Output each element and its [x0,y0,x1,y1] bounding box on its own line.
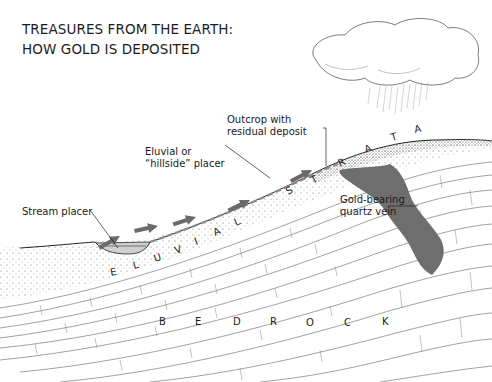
svg-text:R: R [270,316,277,327]
eluvial-label-line-1: Eluvial or [145,146,225,158]
svg-text:E: E [195,316,201,327]
quartz-vein-label: Gold-bearing quartz vein [340,194,405,218]
rain-cloud-icon [313,19,479,114]
eluvial-placer-label: Eluvial or “hillside” placer [145,146,225,170]
eluvial-leader [225,145,270,178]
outcrop-label-line-1: Outcrop with [227,114,307,126]
stream-placer-label: Stream placer [22,206,92,218]
svg-text:C: C [344,317,351,328]
outcrop-label: Outcrop with residual deposit [227,114,307,138]
svg-text:A: A [413,123,422,135]
gold-deposit-diagram: E L U V I A L S T R A T A B E D R O C K [0,0,492,382]
svg-text:K: K [382,316,389,327]
quartz-label-line-2: quartz vein [340,206,405,218]
svg-text:D: D [233,316,241,327]
quartz-label-line-1: Gold-bearing [340,194,405,206]
outcrop-leader [323,128,326,166]
arrow-icon [133,221,159,236]
eluvial-label-line-2: “hillside” placer [145,158,225,170]
svg-text:B: B [159,316,166,327]
outcrop-label-line-2: residual deposit [227,126,307,138]
title-line-1: TREASURES FROM THE EARTH: [22,21,233,37]
svg-text:T: T [388,130,399,143]
svg-text:O: O [306,317,314,328]
quartz-vein [340,164,444,275]
title-line-2: HOW GOLD IS DEPOSITED [22,41,200,57]
